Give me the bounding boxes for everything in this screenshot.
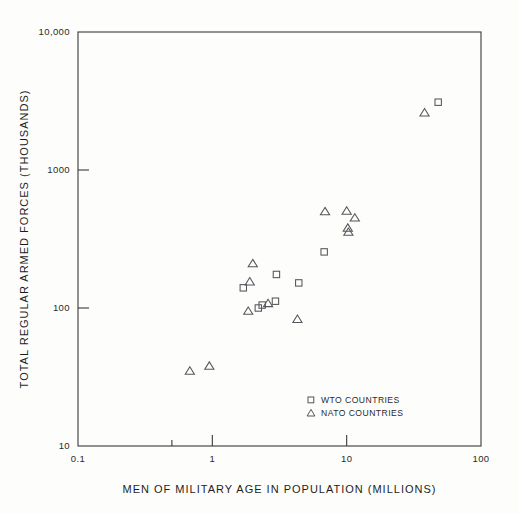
data-point-wto bbox=[296, 280, 302, 286]
plot-border bbox=[78, 32, 481, 446]
plot-frame bbox=[78, 32, 481, 446]
series-wto bbox=[240, 99, 441, 311]
legend-marker-triangle bbox=[307, 409, 315, 416]
y-tick-label: 10,000 bbox=[39, 26, 70, 37]
data-point-nato bbox=[185, 367, 194, 374]
data-point-nato bbox=[320, 207, 329, 214]
y-tick-label: 10 bbox=[59, 440, 70, 451]
chart-figure: 10100100010,000 0.1110100 WTO COUNTRIESN… bbox=[0, 0, 519, 514]
legend-label: NATO COUNTRIES bbox=[321, 408, 403, 418]
data-points bbox=[185, 99, 441, 374]
data-point-nato bbox=[244, 307, 253, 314]
data-point-wto bbox=[240, 285, 246, 291]
legend-marker-square bbox=[308, 397, 314, 403]
y-axis-title: TOTAL REGULAR ARMED FORCES (THOUSANDS) bbox=[18, 90, 30, 389]
x-tick-label: 1 bbox=[209, 453, 215, 464]
legend-label: WTO COUNTRIES bbox=[321, 395, 400, 405]
data-point-wto bbox=[321, 249, 327, 255]
data-point-nato bbox=[342, 207, 351, 214]
series-nato bbox=[185, 109, 429, 375]
data-point-nato bbox=[420, 109, 429, 116]
y-tick-label: 100 bbox=[53, 302, 70, 313]
x-tick-label: 0.1 bbox=[71, 453, 85, 464]
data-point-nato bbox=[205, 362, 214, 369]
data-point-nato bbox=[245, 278, 254, 285]
x-tick-label: 100 bbox=[472, 453, 489, 464]
data-point-nato bbox=[343, 224, 352, 231]
x-axis-title: MEN OF MILITARY AGE IN POPULATION (MILLI… bbox=[123, 483, 437, 495]
data-point-wto bbox=[273, 271, 279, 277]
scatter-plot-svg: 10100100010,000 0.1110100 WTO COUNTRIESN… bbox=[0, 0, 519, 514]
x-axis-ticks: 0.1110100 bbox=[71, 435, 490, 464]
data-point-nato bbox=[350, 214, 359, 221]
data-point-wto bbox=[435, 99, 441, 105]
x-tick-label: 10 bbox=[341, 453, 352, 464]
data-point-nato bbox=[248, 259, 257, 266]
data-point-wto bbox=[272, 298, 278, 304]
chart-legend: WTO COUNTRIESNATO COUNTRIES bbox=[307, 395, 403, 418]
data-point-nato bbox=[293, 315, 302, 322]
y-tick-label: 1000 bbox=[47, 164, 70, 175]
y-axis-ticks: 10100100010,000 bbox=[39, 26, 89, 451]
